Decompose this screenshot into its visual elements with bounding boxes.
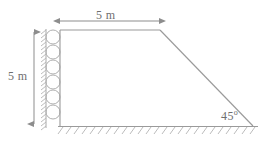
drain-circle-icon <box>46 90 60 104</box>
left-boundary-wall <box>41 29 46 130</box>
slope-face-line <box>160 30 253 126</box>
drain-circle-icon <box>46 30 60 44</box>
slope-angle-value: 45 <box>221 109 234 123</box>
crest-width-label: 5 m <box>96 9 116 21</box>
drain-circle-icon <box>46 45 60 59</box>
embankment-diagram: 5 m 5 m 45o <box>0 0 268 141</box>
wall-hatch-icon <box>41 30 46 130</box>
drain-circle-column <box>46 30 60 119</box>
drain-circle-icon <box>46 105 60 119</box>
slope-angle-label: 45o <box>221 110 238 122</box>
height-label: 5 m <box>8 70 28 82</box>
drain-circle-icon <box>46 75 60 89</box>
ground-hatch-icon <box>58 127 255 134</box>
ground-surface <box>58 127 258 135</box>
degree-symbol: o <box>234 108 238 117</box>
drain-circle-icon <box>46 60 60 74</box>
